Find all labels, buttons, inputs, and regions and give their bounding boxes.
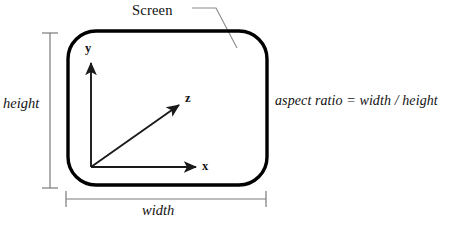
- z-axis-label: z: [185, 92, 191, 105]
- y-axis-label: y: [85, 42, 91, 55]
- diagram-canvas: [0, 0, 452, 225]
- screen-leader-line: [192, 8, 237, 48]
- width-dimension-label: width: [142, 203, 174, 218]
- height-dimension-bracket: [42, 33, 58, 188]
- aspect-ratio-formula: aspect ratio = width / height: [275, 94, 438, 108]
- height-dimension-label: height: [3, 96, 39, 111]
- x-axis-label: x: [202, 160, 208, 173]
- screen-coordinate-diagram: Screen height width aspect ratio = width…: [0, 0, 452, 225]
- screen-label: Screen: [132, 3, 173, 18]
- z-axis-arrow: [91, 105, 179, 167]
